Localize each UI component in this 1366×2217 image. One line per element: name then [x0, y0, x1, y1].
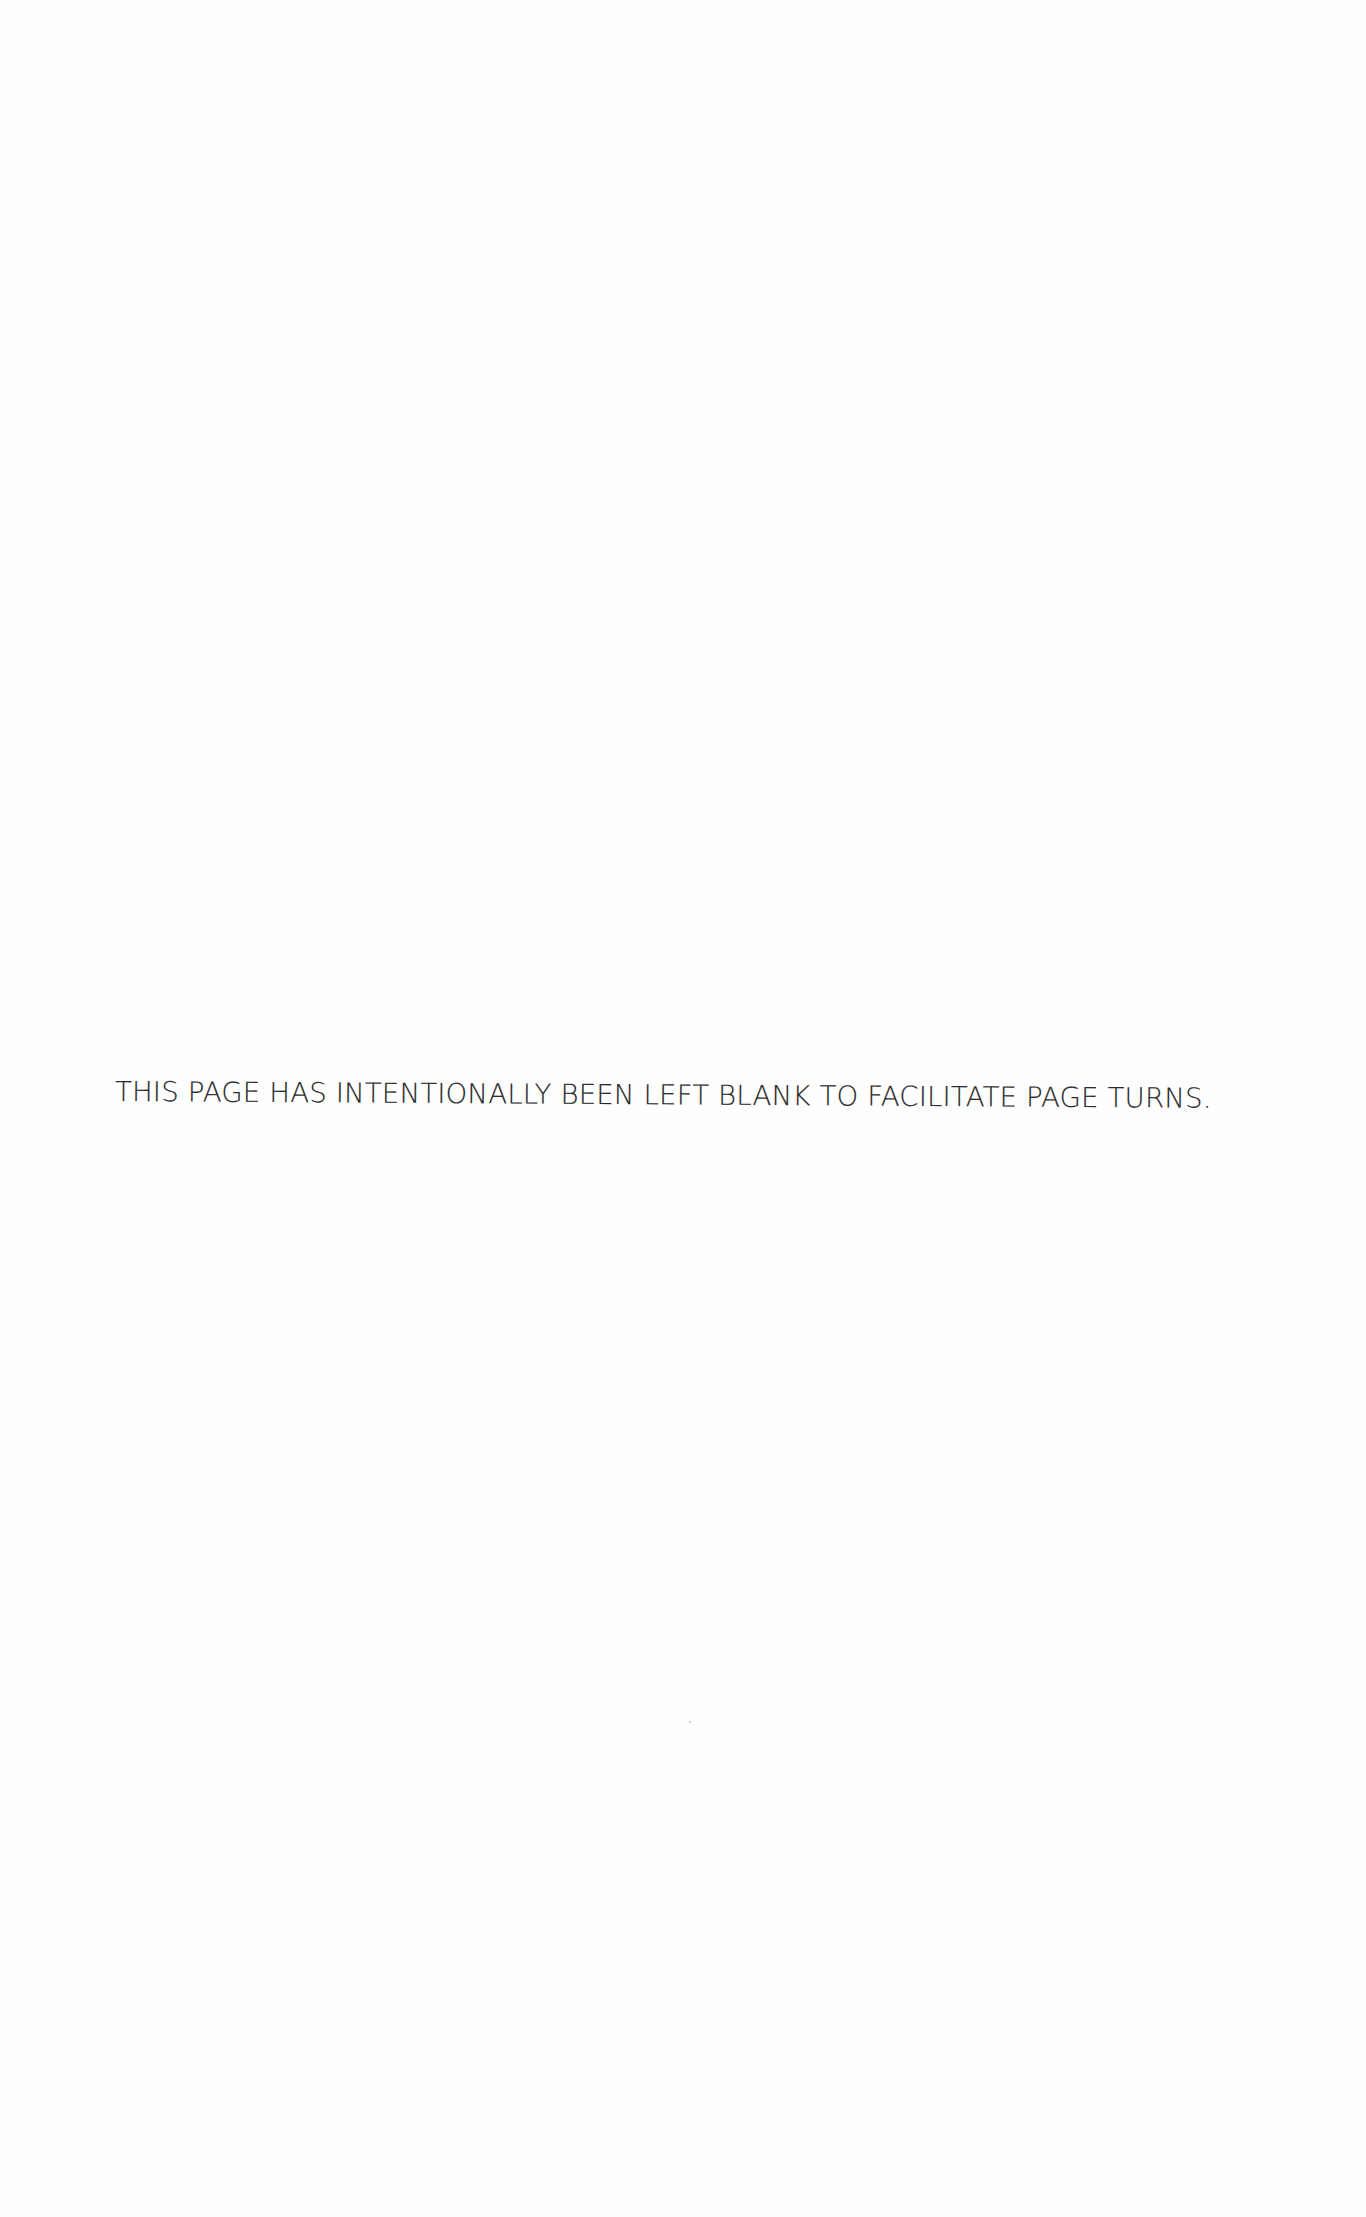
blank-page-notice: THIS PAGE HAS INTENTIONALLY BEEN LEFT BL… [115, 1075, 1235, 1114]
blank-page: THIS PAGE HAS INTENTIONALLY BEEN LEFT BL… [0, 0, 1366, 2217]
scan-speck [689, 1721, 691, 1723]
